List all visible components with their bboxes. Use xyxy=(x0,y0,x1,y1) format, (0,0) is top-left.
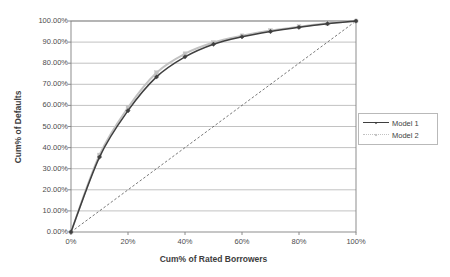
x-axis-tick-label: 0% xyxy=(51,237,91,246)
chart-legend: Model 1 Model 2 xyxy=(358,113,438,145)
chart-container: Cum% of Defaults 0.00%10.00%20.00%30.00%… xyxy=(0,0,450,277)
legend-item-model-1[interactable]: Model 1 xyxy=(363,117,433,129)
legend-item-model-2[interactable]: Model 2 xyxy=(363,129,433,141)
legend-label-model-1: Model 1 xyxy=(389,119,419,128)
legend-swatch-model-2 xyxy=(363,130,389,140)
legend-swatch-model-1 xyxy=(363,118,389,128)
square-marker-icon xyxy=(374,133,378,137)
x-axis-tick-label: 100% xyxy=(336,237,376,246)
x-axis-tick-label: 20% xyxy=(108,237,148,246)
x-axis-tick-label: 80% xyxy=(279,237,319,246)
legend-label-model-2: Model 2 xyxy=(389,131,419,140)
x-axis-title: Cum% of Rated Borrowers xyxy=(71,254,356,264)
diamond-marker-icon xyxy=(374,121,378,125)
x-axis-tick-label: 40% xyxy=(165,237,205,246)
x-axis-tick-label: 60% xyxy=(222,237,262,246)
